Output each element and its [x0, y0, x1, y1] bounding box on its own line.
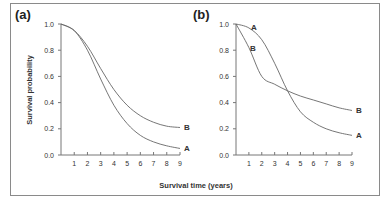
y-tick-label: 0.4: [219, 99, 229, 106]
y-tick-label: 0.2: [44, 125, 54, 132]
curve-a: [61, 24, 180, 148]
x-tick-label: 7: [152, 160, 156, 167]
curve-label-b: B: [356, 106, 362, 115]
x-axis-title: Survival time (years): [159, 181, 233, 190]
curve-label-b: B: [184, 123, 190, 132]
x-tick-label: 6: [311, 160, 315, 167]
survival-curves-figure: (a) (b) Survival probability Survival ti…: [0, 0, 384, 204]
y-tick-label: 0.4: [44, 99, 54, 106]
x-tick-label: 4: [112, 160, 116, 167]
panel-b-label: (b): [193, 7, 210, 22]
x-tick-label: 6: [138, 160, 142, 167]
curve-label-a: A: [184, 144, 190, 153]
panel-a-label: (a): [15, 7, 31, 22]
panel-a-plot: 0.00.20.40.60.81.0123456789AB: [44, 21, 190, 168]
curve-label-a-top: A: [251, 23, 257, 32]
y-tick-label: 0.0: [44, 152, 54, 159]
x-tick-label: 7: [324, 160, 328, 167]
y-tick-label: 0.2: [219, 125, 229, 132]
y-tick-label: 0.8: [44, 47, 54, 54]
x-tick-label: 4: [286, 160, 290, 167]
curve-a: [236, 24, 352, 135]
y-tick-label: 1.0: [219, 21, 229, 28]
x-tick-label: 3: [99, 160, 103, 167]
curve-label-a: A: [356, 131, 362, 140]
y-tick-label: 0.8: [219, 47, 229, 54]
y-axis-title: Survival probability: [25, 54, 34, 124]
x-tick-label: 2: [85, 160, 89, 167]
x-tick-label: 8: [337, 160, 341, 167]
y-tick-label: 0.6: [219, 73, 229, 80]
x-tick-label: 5: [298, 160, 302, 167]
curve-label-b-top: B: [250, 44, 256, 53]
curve-b: [236, 24, 352, 110]
x-tick-label: 8: [165, 160, 169, 167]
x-tick-label: 5: [125, 160, 129, 167]
y-tick-label: 0.6: [44, 73, 54, 80]
x-tick-label: 1: [247, 160, 251, 167]
panel-b-plot: 0.00.20.40.60.81.0123456789ABAB: [219, 21, 362, 168]
x-tick-label: 2: [260, 160, 264, 167]
x-tick-label: 3: [273, 160, 277, 167]
curve-b: [61, 24, 180, 127]
y-tick-label: 1.0: [44, 21, 54, 28]
x-tick-label: 9: [350, 160, 354, 167]
x-tick-label: 1: [72, 160, 76, 167]
y-tick-label: 0.0: [219, 152, 229, 159]
x-tick-label: 9: [178, 160, 182, 167]
